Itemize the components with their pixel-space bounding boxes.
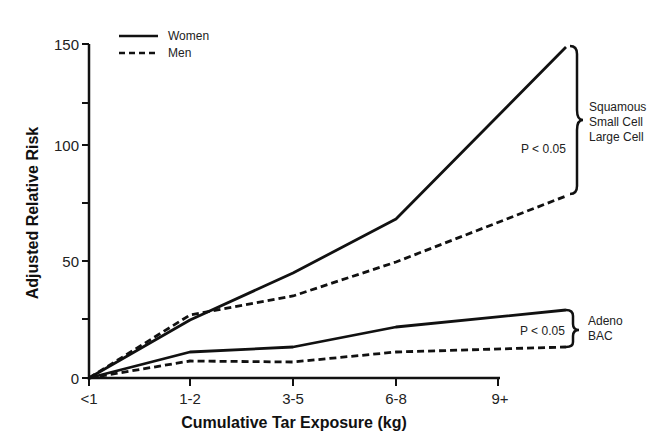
lower-p-value: P < 0.05: [520, 324, 565, 338]
series-men-adeno: [89, 347, 566, 378]
x-axis-title: Cumulative Tar Exposure (kg): [181, 414, 407, 431]
series-men-squamous: [89, 196, 566, 378]
series-women-squamous: [89, 47, 566, 378]
y-tick-50: 50: [62, 253, 79, 270]
y-tick-150: 150: [54, 36, 79, 53]
series-women-adeno: [89, 310, 566, 378]
y-tick-0: 0: [71, 370, 79, 387]
x-tick-lt1: <1: [80, 390, 97, 407]
x-tick-6-8: 6-8: [385, 390, 407, 407]
upper-p-value: P < 0.05: [521, 142, 566, 156]
x-tick-9plus: 9+: [491, 390, 508, 407]
legend: Women Men: [119, 29, 209, 60]
upper-group-label-2: Small Cell: [589, 115, 643, 129]
x-tick-1-2: 1-2: [179, 390, 201, 407]
lower-group-label-2: BAC: [588, 329, 613, 343]
x-axis: [88, 378, 500, 386]
chart-canvas: 150 100 50 0 <1 1-2 3-5 6-8 9+ Cumulativ…: [0, 0, 660, 447]
legend-men-label: Men: [168, 46, 191, 60]
lower-group-label-1: Adeno: [588, 314, 623, 328]
upper-group-label-3: Large Cell: [589, 130, 644, 144]
lower-brace: [566, 310, 579, 347]
upper-group-label-1: Squamous: [589, 100, 646, 114]
y-axis: [82, 44, 89, 380]
y-axis-title: Adjusted Relative Risk: [24, 127, 41, 300]
upper-brace: [570, 46, 583, 194]
y-tick-100: 100: [54, 137, 79, 154]
legend-women-label: Women: [168, 29, 209, 43]
x-tick-3-5: 3-5: [282, 390, 304, 407]
